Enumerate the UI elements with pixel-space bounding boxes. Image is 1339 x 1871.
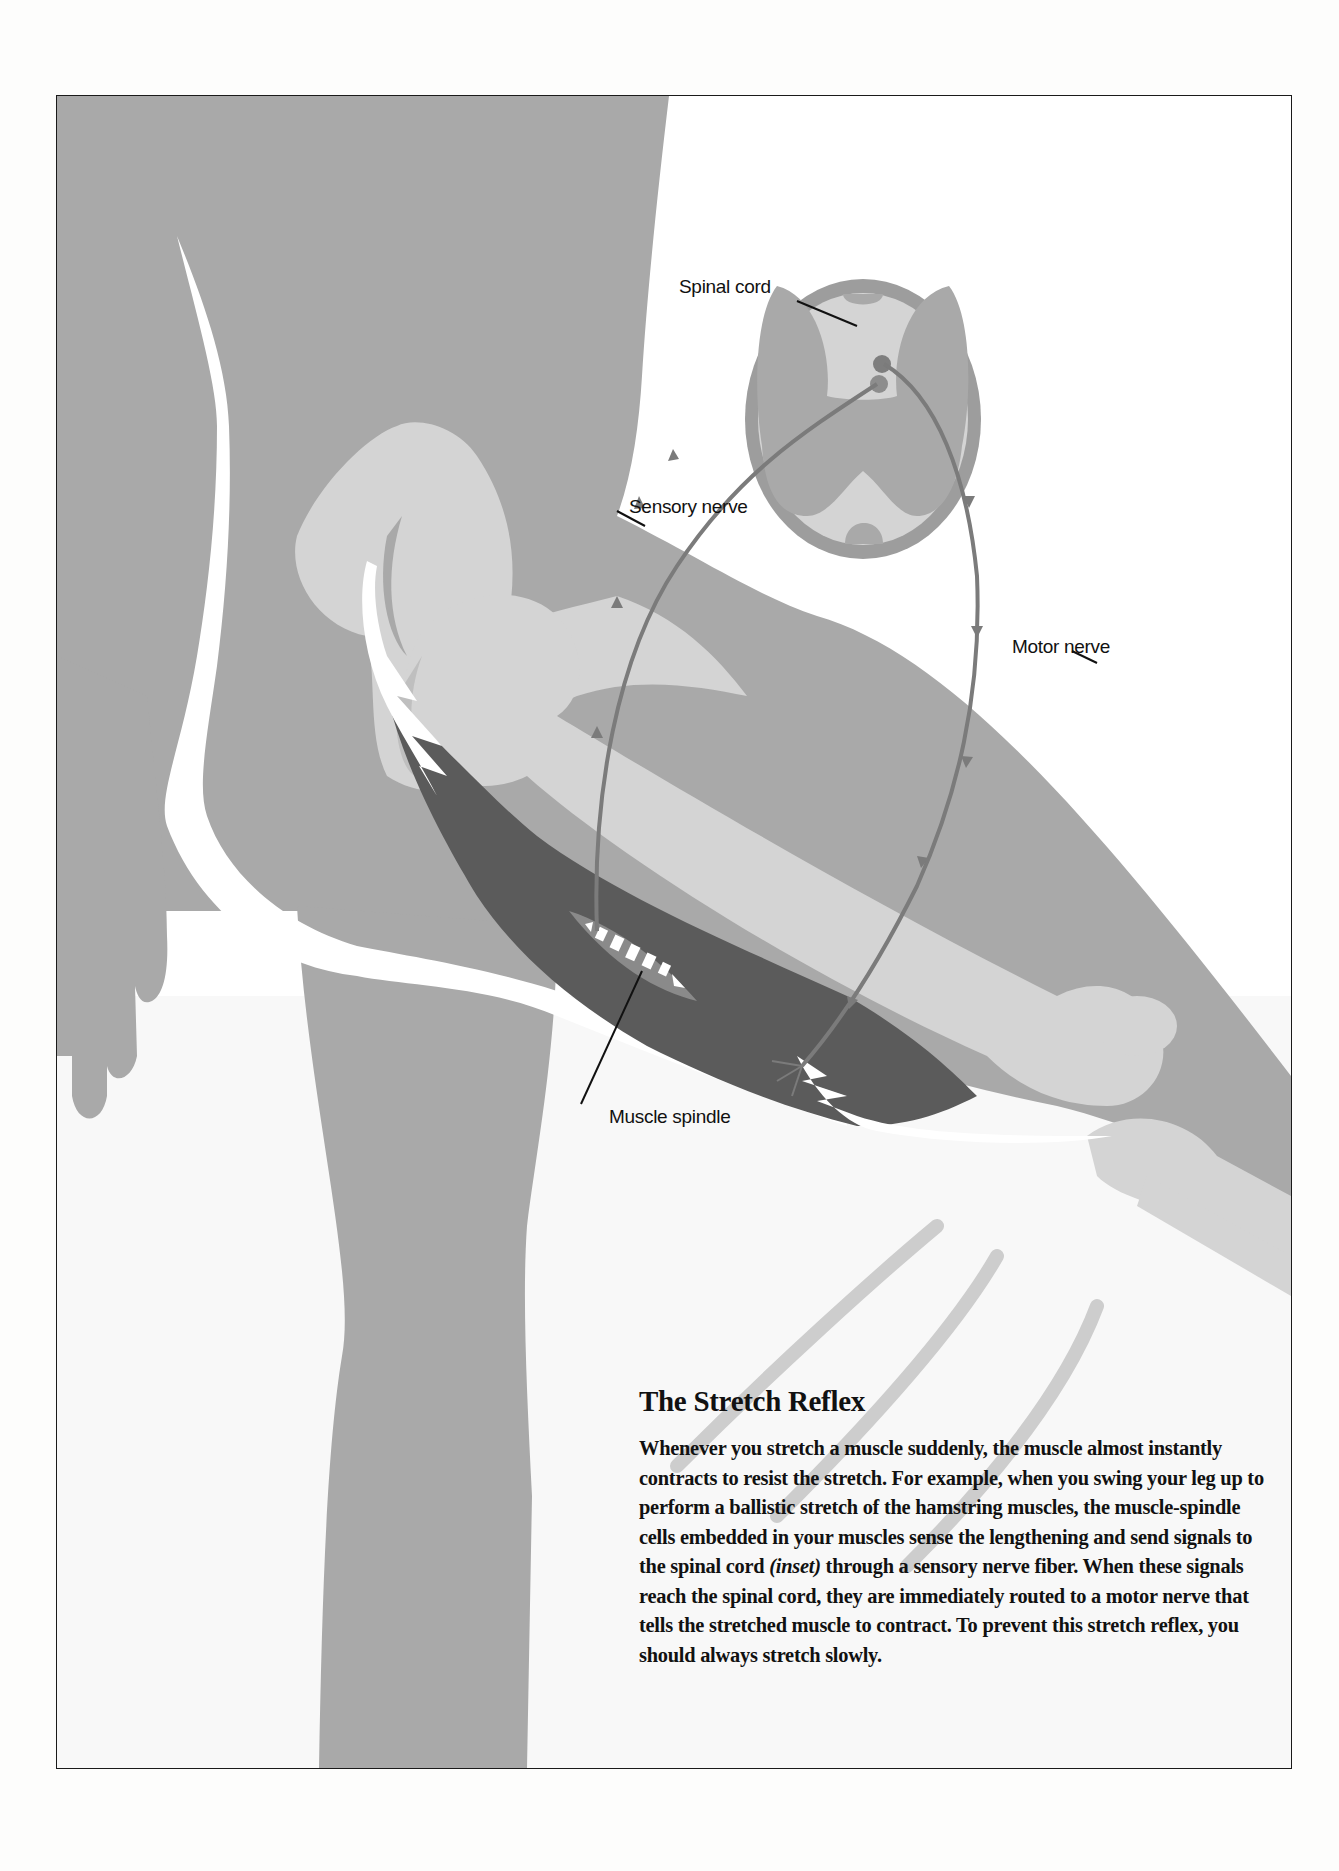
sensory-nerve-label: Sensory nerve: [629, 496, 748, 518]
caption-body: Whenever you stretch a muscle suddenly, …: [639, 1434, 1279, 1670]
caption-body-italic: (inset): [769, 1555, 821, 1577]
spinal-cord-label: Spinal cord: [679, 276, 771, 298]
caption-block: The Stretch Reflex Whenever you stretch …: [639, 1385, 1279, 1670]
figure-frame: Spinal cord Sensory nerve Motor nerve Mu…: [56, 95, 1292, 1769]
motor-nerve-label: Motor nerve: [1012, 636, 1110, 658]
caption-title: The Stretch Reflex: [639, 1385, 1279, 1418]
patella-bone: [1097, 996, 1177, 1056]
spinal-cord-cross-section: [745, 279, 981, 559]
muscle-spindle-label: Muscle spindle: [609, 1106, 730, 1128]
